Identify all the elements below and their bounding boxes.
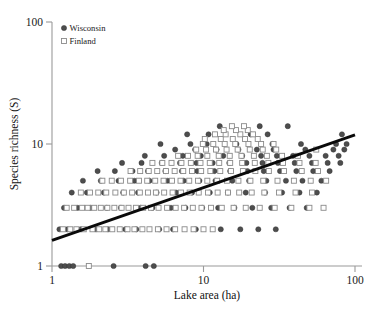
data-point-finland [236, 178, 241, 183]
data-point-finland [251, 153, 256, 158]
data-point-wisconsin [274, 153, 279, 158]
data-point-finland [169, 160, 174, 165]
data-point-finland [199, 169, 204, 174]
data-point-finland [110, 227, 115, 232]
data-point-finland [210, 227, 215, 232]
data-point-finland [205, 153, 210, 158]
data-point-finland [117, 227, 122, 232]
data-point-finland [155, 227, 160, 232]
data-point-finland [98, 205, 103, 210]
data-point-finland [64, 205, 69, 210]
data-point-finland [146, 169, 151, 174]
data-point-finland [324, 178, 329, 183]
data-point-wisconsin [162, 153, 167, 158]
data-point-wisconsin [327, 168, 332, 173]
data-point-finland [266, 169, 271, 174]
data-point-finland [126, 205, 131, 210]
data-point-finland [161, 178, 166, 183]
data-point-finland [219, 205, 224, 210]
data-point-finland [241, 124, 246, 129]
data-point-finland [191, 227, 196, 232]
data-point-finland [249, 190, 254, 195]
data-point-wisconsin [151, 263, 156, 268]
data-point-finland [194, 147, 199, 152]
chart-canvas: 110100 110100 WisconsinFinland Lake area… [0, 0, 370, 309]
data-point-wisconsin [314, 190, 319, 195]
data-point-finland [233, 142, 238, 147]
data-point-finland [316, 169, 321, 174]
data-point-finland [173, 227, 178, 232]
legend-marker-finland [62, 39, 67, 44]
data-point-wisconsin [273, 227, 278, 232]
data-point-finland [196, 178, 201, 183]
legend-marker-wisconsin [61, 25, 66, 30]
data-point-wisconsin [260, 160, 265, 165]
data-point-finland [140, 227, 145, 232]
data-point-finland [128, 169, 133, 174]
data-point-wisconsin [254, 147, 259, 152]
data-point-finland [113, 190, 118, 195]
data-point-finland [72, 205, 77, 210]
data-point-wisconsin [307, 153, 312, 158]
data-point-finland [185, 153, 190, 158]
data-point-finland [109, 178, 114, 183]
data-point-finland [239, 153, 244, 158]
data-point-wisconsin [261, 168, 266, 173]
data-point-finland [321, 205, 326, 210]
data-point-finland [201, 227, 206, 232]
data-point-finland [100, 178, 105, 183]
data-point-finland [208, 205, 213, 210]
species-area-chart: 110100 110100 WisconsinFinland Lake area… [0, 0, 370, 309]
data-point-finland [96, 190, 101, 195]
data-point-finland [105, 205, 110, 210]
data-point-finland [299, 169, 304, 174]
data-point-finland [291, 178, 296, 183]
data-point-finland [165, 205, 170, 210]
data-point-wisconsin [338, 160, 343, 165]
data-point-wisconsin [238, 227, 243, 232]
data-point-finland [260, 147, 265, 152]
data-point-finland [118, 178, 123, 183]
data-point-finland [160, 160, 165, 165]
data-point-finland [150, 160, 155, 165]
data-point-wisconsin [294, 168, 299, 173]
data-point-finland [176, 153, 181, 158]
data-point-finland [229, 124, 234, 129]
data-point-finland [309, 190, 314, 195]
data-point-finland [211, 142, 216, 147]
data-point-finland [216, 153, 221, 158]
data-point-wisconsin [265, 132, 270, 137]
data-point-finland [243, 136, 248, 141]
data-point-finland [173, 205, 178, 210]
data-point-wisconsin [188, 141, 193, 146]
data-point-finland [104, 190, 109, 195]
data-point-finland [274, 147, 279, 152]
data-point-finland [229, 169, 234, 174]
data-point-wisconsin [256, 227, 261, 232]
data-point-finland [293, 190, 298, 195]
data-point-finland [202, 136, 207, 141]
data-point-finland [145, 190, 150, 195]
data-point-finland [119, 205, 124, 210]
data-point-wisconsin [325, 160, 330, 165]
data-point-finland [153, 178, 158, 183]
data-point-wisconsin [323, 153, 328, 158]
data-point-finland [222, 142, 227, 147]
legend-label: Finland [70, 36, 97, 46]
data-point-finland [125, 227, 130, 232]
x-tick-label: 1 [49, 274, 55, 286]
data-point-finland [214, 147, 219, 152]
data-point-finland [172, 169, 177, 174]
data-point-wisconsin [336, 153, 341, 158]
data-point-wisconsin [342, 147, 347, 152]
data-point-finland [145, 178, 150, 183]
data-point-finland [178, 178, 183, 183]
data-point-finland [170, 178, 175, 183]
data-point-finland [218, 169, 223, 174]
data-point-finland [182, 205, 187, 210]
data-point-finland [289, 205, 294, 210]
data-point-wisconsin [331, 147, 336, 152]
data-point-wisconsin [300, 178, 305, 183]
data-point-finland [60, 227, 65, 232]
x-tick-label: 10 [198, 274, 210, 286]
